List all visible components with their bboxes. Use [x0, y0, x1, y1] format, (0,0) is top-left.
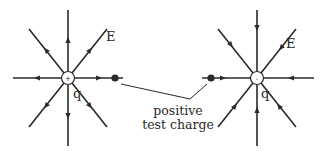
field-label-e: E [106, 29, 116, 44]
charge-label-q: q [73, 86, 81, 101]
test-charge-dot-right [207, 74, 214, 81]
positive-charge-field: + q E [13, 10, 123, 146]
charge-label-q: q [261, 86, 269, 101]
field-line-diagram: + q E - q E [0, 0, 326, 151]
test-charge-dot-left [111, 74, 118, 81]
test-charge-leader-line [121, 84, 207, 99]
negative-charge-field: - q E [202, 10, 314, 146]
positive-sign: + [65, 75, 71, 83]
test-charge-label-line1: positive [153, 103, 202, 118]
test-charge-label-line2: test charge [142, 117, 214, 132]
field-label-e: E [286, 36, 296, 51]
